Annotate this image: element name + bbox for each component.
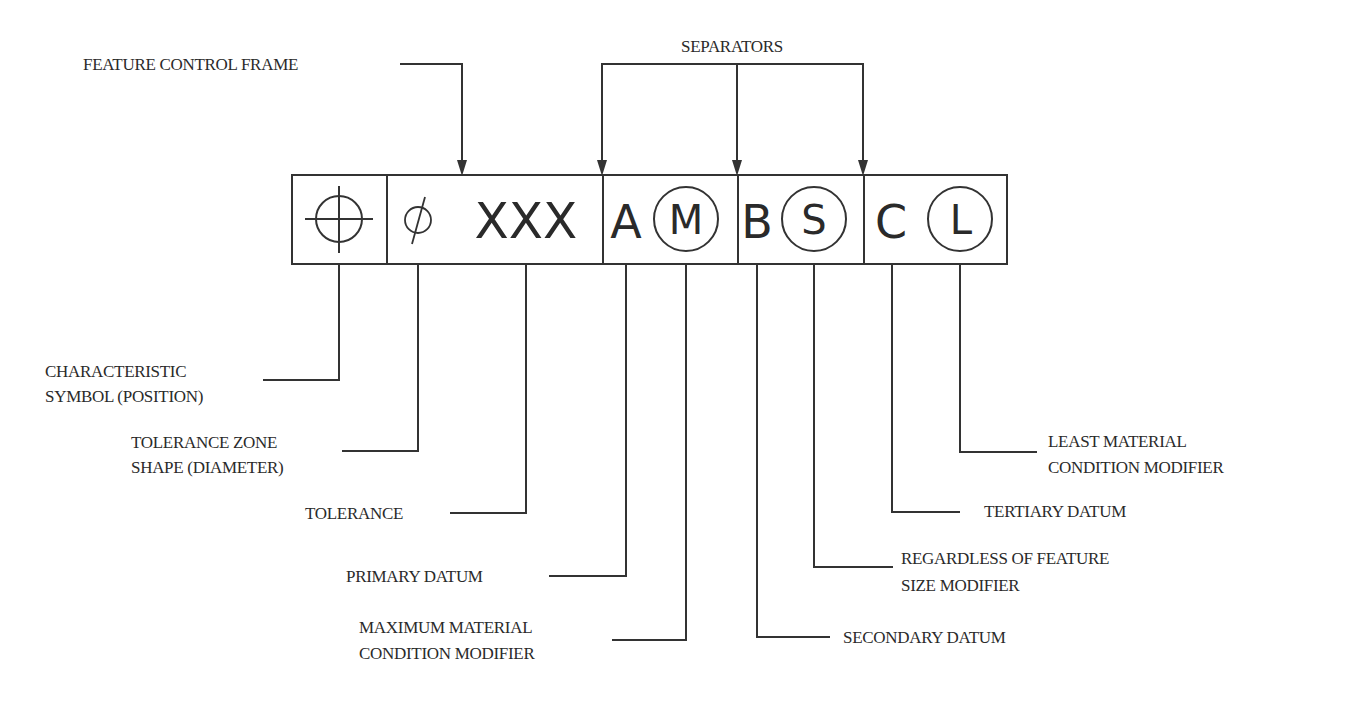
- leader-line: [342, 264, 418, 451]
- tolerance-label: TOLERANCE: [305, 504, 403, 523]
- rfs-modifier-callout: REGARDLESS OF FEATURE SIZE MODIFIER: [814, 264, 1109, 595]
- mmc-modifier-callout: MAXIMUM MATERIAL CONDITION MODIFIER: [359, 264, 686, 663]
- secondary-datum-letter: B: [741, 195, 773, 249]
- characteristic-symbol-label-line2: SYMBOL (POSITION): [45, 387, 203, 406]
- primary-datum-callout: PRIMARY DATUM: [346, 264, 626, 586]
- feature-control-frame-callout: FEATURE CONTROL FRAME: [83, 55, 467, 176]
- leader-line: [960, 264, 1037, 452]
- arrow-down-icon: [732, 160, 742, 176]
- leader-line: [612, 264, 686, 640]
- lmc-modifier-letter: L: [950, 197, 973, 243]
- feature-control-frame-label: FEATURE CONTROL FRAME: [83, 55, 298, 74]
- secondary-datum-label: SECONDARY DATUM: [843, 628, 1006, 647]
- arrow-down-icon: [858, 160, 868, 176]
- arrow-down-icon: [457, 160, 467, 176]
- gdt-diagram: FEATURE CONTROL FRAME SEPARATORS XXX A: [0, 0, 1347, 722]
- separators-label: SEPARATORS: [681, 37, 783, 56]
- lmc-modifier-label-line2: CONDITION MODIFIER: [1048, 458, 1224, 477]
- mmc-modifier-label-line2: CONDITION MODIFIER: [359, 644, 535, 663]
- lmc-modifier-callout: LEAST MATERIAL CONDITION MODIFIER: [960, 264, 1224, 477]
- leader-line: [400, 64, 462, 166]
- rfs-modifier-label-line1: REGARDLESS OF FEATURE: [901, 549, 1109, 568]
- tertiary-datum-letter: C: [875, 195, 907, 249]
- mmc-modifier-letter: M: [669, 197, 704, 243]
- tolerance-zone-shape-label-line2: SHAPE (DIAMETER): [131, 458, 283, 477]
- leader-line: [757, 264, 830, 637]
- separators-bracket: [602, 64, 863, 166]
- mmc-modifier-label-line1: MAXIMUM MATERIAL: [359, 618, 532, 637]
- tertiary-datum-callout: TERTIARY DATUM: [892, 264, 1126, 521]
- tolerance-value: XXX: [475, 192, 578, 250]
- rfs-modifier-letter: S: [801, 197, 826, 243]
- arrow-down-icon: [597, 160, 607, 176]
- feature-control-frame: XXX A M B S C L: [292, 175, 1007, 264]
- leader-line: [892, 264, 960, 512]
- leader-line: [814, 264, 893, 567]
- tolerance-zone-shape-label-line1: TOLERANCE ZONE: [131, 433, 277, 452]
- leader-line: [450, 264, 526, 513]
- primary-datum-letter: A: [610, 195, 642, 249]
- rfs-modifier-label-line2: SIZE MODIFIER: [901, 576, 1020, 595]
- lmc-modifier-label-line1: LEAST MATERIAL: [1048, 432, 1187, 451]
- tertiary-datum-label: TERTIARY DATUM: [984, 502, 1126, 521]
- primary-datum-label: PRIMARY DATUM: [346, 567, 483, 586]
- separators-callout: SEPARATORS: [597, 37, 868, 176]
- characteristic-symbol-callout: CHARACTERISTIC SYMBOL (POSITION): [45, 264, 339, 406]
- leader-line: [263, 264, 339, 380]
- characteristic-symbol-label-line1: CHARACTERISTIC: [45, 362, 186, 381]
- leader-line: [549, 264, 626, 576]
